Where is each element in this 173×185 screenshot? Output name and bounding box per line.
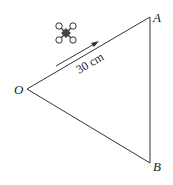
segment-OA xyxy=(27,17,150,89)
point-label-B: B xyxy=(153,159,161,174)
segment-OB xyxy=(27,89,150,163)
triangle-diagram: 30 cm O A B xyxy=(0,0,173,185)
point-label-O: O xyxy=(14,82,24,97)
diagram-canvas: 30 cm O A B xyxy=(0,0,173,185)
quadcopter-drone-icon xyxy=(56,23,76,43)
point-label-A: A xyxy=(152,10,161,25)
